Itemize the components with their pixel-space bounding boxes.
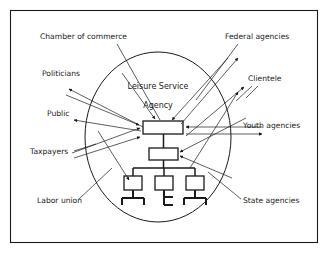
- leader-labor-union: [79, 168, 112, 199]
- unit-left-stub: [122, 190, 144, 205]
- label-state-agencies: State agencies: [243, 196, 299, 205]
- arrow-to-federal-agencies: [181, 58, 238, 124]
- arrow-from-chamber-of-commerce: [122, 73, 155, 119]
- leader-federal-agencies: [196, 44, 238, 100]
- unit-center-box: [155, 176, 173, 190]
- arrow-from-labor-union: [98, 131, 129, 180]
- label-public: Public: [47, 109, 69, 118]
- leader-clientele-a: [236, 86, 252, 101]
- label-chamber-of-commerce: Chamber of commerce: [40, 32, 127, 41]
- label-federal-agencies: Federal agencies: [225, 32, 289, 41]
- label-labor-union: Labor union: [37, 196, 82, 205]
- leader-state-agencies: [208, 172, 241, 199]
- center-label-line2: Agency: [143, 101, 173, 110]
- unit-left-box: [124, 176, 142, 190]
- arrow-from-state-agencies: [180, 156, 232, 178]
- unit-center-stub: [164, 190, 173, 205]
- label-taxpayers: Taxpayers: [29, 147, 68, 156]
- arrow-from-clientele: [180, 118, 246, 152]
- environment-diagram: Leisure Service Agency Chamber of commer…: [0, 0, 329, 254]
- label-clientele: Clientele: [248, 74, 282, 83]
- unit-right-box: [186, 176, 204, 190]
- unit-right-stub: [184, 190, 206, 205]
- agency-head-box: [143, 121, 183, 134]
- agency-second-box: [149, 148, 178, 160]
- diagram-page: Leisure Service Agency Chamber of commer…: [0, 0, 329, 254]
- label-politicians: Politicians: [42, 69, 80, 78]
- leader-clientele-b: [246, 86, 258, 98]
- center-label-line1: Leisure Service: [128, 82, 189, 91]
- label-youth-agencies: Youth agencies: [242, 121, 300, 130]
